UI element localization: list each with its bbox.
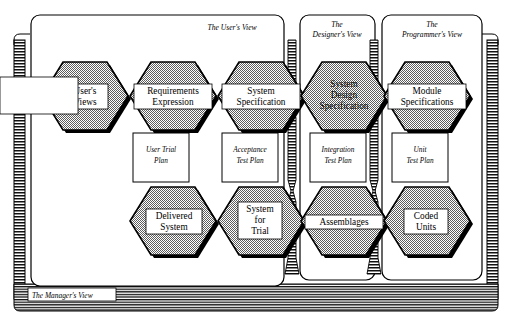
hex-line-2: Trial [251, 226, 269, 236]
plan-integration-test-plan[interactable]: Integration Test Plan [310, 133, 366, 182]
lifecycle-diagram: User Trial Plan Acceptance Test Plan Int… [0, 0, 512, 331]
plan-line-0: Integration [321, 145, 355, 154]
plan-acceptance-test-plan[interactable]: Acceptance Test Plan [222, 133, 278, 182]
caption-programmers-view-line-0: The [426, 20, 438, 29]
hex-line-1: Specification [236, 97, 285, 107]
plan-line-1: Test Plan [324, 156, 351, 165]
plan-line-0: User Trial [146, 145, 176, 154]
plan-line-1: Test Plan [406, 156, 433, 165]
plan-unit-test-plan[interactable]: Unit Test Plan [392, 133, 448, 182]
top-row-hexagons: User's Views Requirements Expression Sys… [0, 62, 473, 133]
hex-line-0: Assemblages [319, 217, 368, 227]
hex-line-0: System [330, 79, 358, 89]
hex-line-0: Coded [414, 211, 439, 221]
hex-line-0: System [247, 86, 275, 96]
diagram-canvas: User Trial Plan Acceptance Test Plan Int… [0, 0, 512, 331]
caption-designers-view-line-1: Designer's View [312, 30, 363, 39]
hex-line-2: Specification [319, 101, 368, 111]
hex-line-1: for [255, 215, 267, 225]
caption-designers-view-line-0: The [331, 20, 343, 29]
plan-user-trial-plan[interactable]: User Trial Plan [133, 133, 189, 182]
plan-line-0: Acceptance [232, 145, 267, 154]
hex-line-0: Requirements [147, 86, 199, 96]
hex-line-0: System [246, 204, 274, 214]
caption-users-view-line-0: The User's View [207, 23, 257, 32]
plan-line-1: Test Plan [236, 156, 263, 165]
hex-line-1: Specifications [401, 97, 454, 107]
manager-view-caption[interactable]: The Manager's View [28, 288, 116, 301]
hex-line-1: Units [416, 222, 437, 232]
hex-line-1: System [160, 222, 188, 232]
caption-programmers-view-line-1: Programmer's View [401, 30, 463, 39]
hex-line-1: Expression [152, 97, 194, 107]
hex-line-1: Design [331, 90, 358, 100]
plan-line-0: Unit [414, 145, 428, 154]
manager-view-label: The Manager's View [32, 291, 93, 300]
hex-line-0: Delivered [156, 211, 193, 221]
hex-line-0: Module [413, 86, 442, 96]
right-hatch-band [487, 40, 498, 299]
plan-line-1: Plan [153, 156, 168, 165]
